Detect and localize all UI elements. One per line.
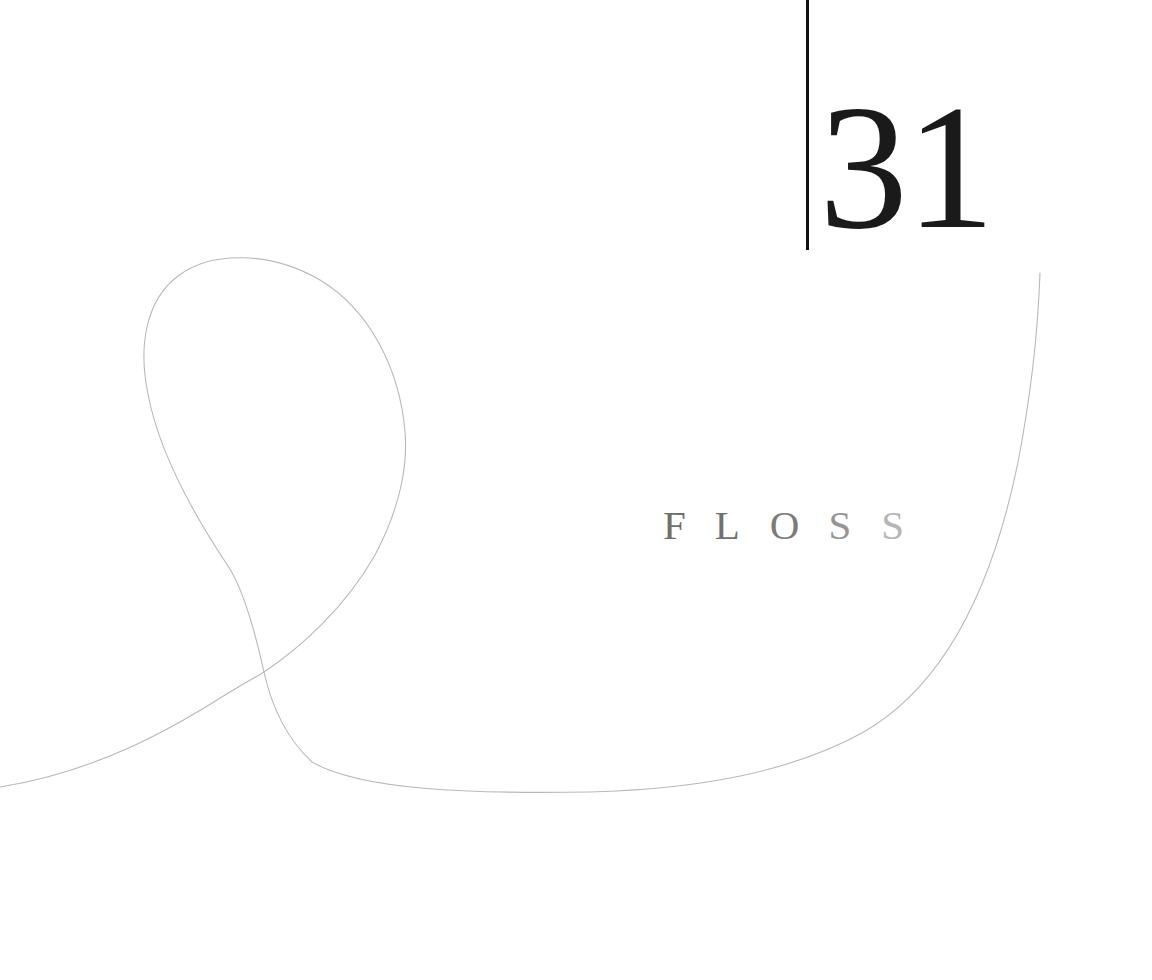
wordmark-letter-s-4: S — [881, 500, 904, 550]
page-canvas: 31 FLOSS — [0, 0, 1152, 980]
folio-vertical-rule — [806, 0, 809, 250]
wordmark-letter-f-0: F — [663, 500, 686, 550]
floss-wordmark: FLOSS — [663, 500, 904, 550]
wordmark-letter-s-3: S — [828, 500, 851, 550]
wordmark-letter-l-1: L — [715, 500, 740, 550]
folio-block: 31 — [806, 0, 993, 268]
wordmark-letter-o-2: O — [770, 500, 800, 550]
page-number: 31 — [819, 78, 993, 256]
